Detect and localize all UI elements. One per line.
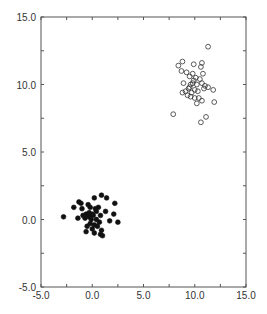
axis-ticks	[41, 17, 246, 287]
x-tick-label: 15.0	[236, 290, 256, 301]
x-tick-label: 0.0	[85, 290, 99, 301]
open-point	[212, 100, 217, 105]
y-tick-label: 0.0	[22, 215, 36, 226]
open-point	[211, 88, 216, 93]
open-point	[192, 88, 197, 93]
open-point	[171, 112, 176, 117]
filled-point	[81, 213, 86, 218]
filled-point	[80, 206, 85, 211]
filled-point	[115, 220, 120, 225]
open-point	[195, 89, 200, 94]
filled-point	[90, 212, 95, 217]
filled-point	[107, 218, 112, 223]
open-point	[200, 98, 205, 103]
filled-point	[79, 201, 84, 206]
open-point	[191, 62, 196, 67]
open-point	[181, 81, 186, 86]
filled-point	[92, 231, 97, 236]
filled-point	[92, 196, 97, 201]
filled-point	[89, 217, 94, 222]
filled-point	[84, 229, 89, 234]
filled-point	[112, 201, 117, 206]
filled-point	[71, 205, 76, 210]
filled-point	[94, 217, 99, 222]
filled-point	[104, 196, 109, 201]
open-point	[180, 59, 185, 64]
open-point	[204, 115, 209, 120]
filled-point	[98, 213, 103, 218]
series-cluster-open	[171, 44, 217, 124]
x-tick-label: 10.0	[185, 290, 205, 301]
filled-point	[100, 233, 105, 238]
open-point	[176, 63, 181, 68]
open-point	[180, 90, 185, 95]
x-tick-label: 5.0	[137, 290, 151, 301]
filled-point	[85, 224, 90, 229]
open-point	[201, 71, 206, 76]
filled-point	[93, 206, 98, 211]
scatter-chart: -5.00.05.010.015.0 -5.00.05.010.015.0	[0, 0, 267, 314]
y-tick-label: 10.0	[17, 80, 37, 91]
open-point	[179, 69, 184, 74]
open-point	[187, 74, 192, 79]
plot-frame	[41, 17, 246, 287]
filled-point	[103, 209, 108, 214]
y-tick-label: 15.0	[17, 12, 37, 23]
y-tick-label: -5.0	[19, 282, 37, 293]
filled-point	[88, 205, 93, 210]
data-points	[61, 44, 216, 238]
y-axis-tick-labels: -5.00.05.010.015.0	[17, 12, 37, 293]
filled-point	[99, 193, 104, 198]
open-point	[206, 44, 211, 49]
open-point	[199, 120, 204, 125]
x-axis-tick-labels: -5.00.05.010.015.0	[32, 290, 256, 301]
open-point	[194, 101, 199, 106]
open-point	[185, 93, 190, 98]
filled-point	[111, 212, 116, 217]
filled-point	[76, 216, 81, 221]
filled-point	[95, 224, 100, 229]
filled-point	[99, 228, 104, 233]
filled-point	[61, 214, 66, 219]
series-cluster-filled	[61, 193, 120, 238]
open-point	[200, 81, 205, 86]
y-tick-label: 5.0	[22, 147, 36, 158]
